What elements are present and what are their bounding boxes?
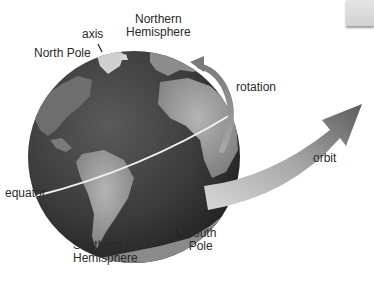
label-rotation: rotation xyxy=(236,81,276,94)
label-line: Hemisphere xyxy=(126,26,191,39)
label-line: Hemisphere xyxy=(73,252,138,265)
label-equator: equator xyxy=(5,187,46,200)
label-northern-hemisphere: Northern Hemisphere xyxy=(126,13,191,39)
label-axis: axis xyxy=(82,28,103,41)
label-orbit: orbit xyxy=(313,152,336,165)
label-line: Pole xyxy=(185,240,216,253)
axis-leader-line xyxy=(98,44,102,52)
label-southern-hemisphere: Southern Hemisphere xyxy=(73,239,138,265)
label-north-pole: North Pole xyxy=(34,47,91,60)
label-south-pole: South Pole xyxy=(185,227,216,253)
earth-diagram: Northern Hemisphere axis North Pole rota… xyxy=(0,0,374,281)
